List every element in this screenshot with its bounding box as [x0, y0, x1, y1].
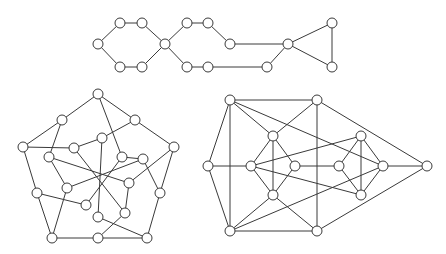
graph-edge: [317, 166, 427, 231]
graph-edge: [251, 136, 273, 166]
graph-edge: [208, 166, 230, 231]
graph-node: [142, 233, 152, 243]
graph-node: [93, 89, 103, 99]
graph-node: [137, 62, 147, 72]
graph-node: [262, 62, 272, 72]
graph-canvas: [0, 0, 446, 254]
graph-edge: [98, 94, 135, 120]
graph-node: [422, 161, 432, 171]
graph-node: [57, 115, 67, 125]
graph-node: [81, 200, 91, 210]
graph-node: [18, 142, 28, 152]
graph-node: [69, 143, 79, 153]
graph-edge: [208, 100, 230, 166]
graph-node: [32, 188, 42, 198]
graph-edge: [23, 120, 62, 147]
graph-node: [160, 39, 170, 49]
graph-edge: [49, 120, 62, 157]
graph-edge: [102, 120, 135, 138]
graph-edge: [273, 195, 317, 231]
graph-node: [47, 233, 57, 243]
graph-edge: [98, 138, 102, 217]
graph-node: [327, 62, 337, 72]
graph-edge: [288, 23, 332, 44]
graph-edge: [98, 217, 147, 238]
graph-node: [120, 208, 130, 218]
graph-node: [203, 161, 213, 171]
graph-edge: [23, 147, 37, 193]
graph-edge: [86, 157, 122, 205]
graph-edge: [339, 136, 361, 166]
graph-node: [203, 62, 213, 72]
left-pentagon-graph: [18, 89, 179, 243]
graph-edge: [52, 188, 67, 238]
graph-node: [203, 18, 213, 28]
graph-edge: [251, 166, 361, 195]
graph-node: [268, 131, 278, 141]
graph-edge: [129, 147, 174, 183]
graph-node: [93, 233, 103, 243]
graph-edge: [273, 100, 317, 136]
graph-node: [246, 161, 256, 171]
graph-node: [312, 226, 322, 236]
graph-node: [225, 39, 235, 49]
graph-node: [138, 154, 148, 164]
graph-node: [155, 188, 165, 198]
graph-node: [117, 152, 127, 162]
graph-node: [225, 226, 235, 236]
graph-edge: [143, 159, 160, 193]
graph-node: [182, 62, 192, 72]
graph-edge: [288, 44, 332, 67]
graph-node: [93, 39, 103, 49]
graph-node: [378, 161, 388, 171]
graph-node: [115, 62, 125, 72]
graph-node: [93, 212, 103, 222]
graph-edge: [37, 193, 86, 205]
graph-node: [137, 18, 147, 28]
graph-node: [115, 18, 125, 28]
graph-node: [327, 18, 337, 28]
graph-edge: [230, 195, 273, 231]
graph-node: [124, 178, 134, 188]
graph-node: [334, 161, 344, 171]
graph-node: [290, 161, 300, 171]
graph-node: [283, 39, 293, 49]
right-diamond-graph: [203, 95, 432, 236]
graph-edge: [273, 136, 295, 166]
graph-edge: [317, 100, 427, 166]
graph-edge: [160, 147, 174, 193]
graph-node: [225, 95, 235, 105]
top-chain-graph: [93, 18, 337, 72]
graph-node: [356, 131, 366, 141]
graph-node: [356, 190, 366, 200]
graph-edge: [230, 100, 273, 136]
graph-node: [312, 95, 322, 105]
graph-node: [182, 18, 192, 28]
graph-node: [130, 115, 140, 125]
graph-node: [97, 133, 107, 143]
graph-edge: [251, 136, 361, 166]
graph-node: [169, 142, 179, 152]
graph-edge: [135, 120, 174, 147]
graph-edge: [23, 147, 74, 148]
graph-node: [268, 190, 278, 200]
graph-edge: [147, 193, 160, 238]
graph-edge: [37, 193, 52, 238]
graph-edge: [62, 94, 98, 120]
graph-node: [44, 152, 54, 162]
graph-node: [62, 183, 72, 193]
